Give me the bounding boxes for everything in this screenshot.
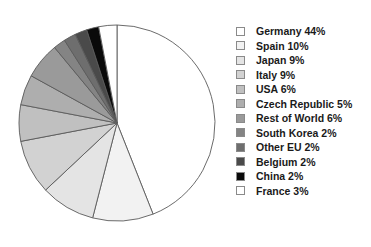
pie-svg (0, 0, 232, 247)
chart-legend: Germany 44%Spain 10%Japan 9%Italy 9%USA … (236, 24, 371, 198)
legend-item-label: Rest of World 6% (256, 113, 342, 124)
legend-item[interactable]: China 2% (236, 169, 371, 184)
legend-swatch-icon (236, 114, 245, 123)
legend-item[interactable]: Japan 9% (236, 53, 371, 68)
legend-item-label: Other EU 2% (256, 142, 320, 153)
legend-swatch-icon (236, 27, 245, 36)
legend-swatch-icon (236, 186, 245, 195)
legend-swatch-icon (236, 128, 245, 137)
legend-item-label: France 3% (256, 186, 309, 197)
legend-item-label: USA 6% (256, 84, 296, 95)
legend-item[interactable]: Rest of World 6% (236, 111, 371, 126)
legend-swatch-icon (236, 85, 245, 94)
legend-item-label: Japan 9% (256, 55, 304, 66)
legend-swatch-icon (236, 143, 245, 152)
legend-item[interactable]: Spain 10% (236, 39, 371, 54)
legend-item[interactable]: Belgium 2% (236, 155, 371, 170)
legend-item[interactable]: South Korea 2% (236, 126, 371, 141)
legend-swatch-icon (236, 41, 245, 50)
legend-swatch-icon (236, 56, 245, 65)
legend-swatch-icon (236, 172, 245, 181)
legend-item[interactable]: USA 6% (236, 82, 371, 97)
legend-item[interactable]: Other EU 2% (236, 140, 371, 155)
legend-item[interactable]: Italy 9% (236, 68, 371, 83)
legend-item[interactable]: Czech Republic 5% (236, 97, 371, 112)
legend-item-label: South Korea 2% (256, 128, 337, 139)
legend-item-label: Spain 10% (256, 41, 309, 52)
legend-item-label: Italy 9% (256, 70, 295, 81)
legend-item-label: China 2% (256, 171, 303, 182)
legend-swatch-icon (236, 99, 245, 108)
pie-chart-figure: Germany 44%Spain 10%Japan 9%Italy 9%USA … (0, 0, 371, 247)
pie-plot-area (0, 0, 232, 247)
legend-swatch-icon (236, 157, 245, 166)
legend-item-label: Germany 44% (256, 26, 325, 37)
legend-item-label: Czech Republic 5% (256, 99, 352, 110)
legend-swatch-icon (236, 70, 245, 79)
legend-item[interactable]: Germany 44% (236, 24, 371, 39)
legend-item-label: Belgium 2% (256, 157, 316, 168)
legend-item[interactable]: France 3% (236, 184, 371, 199)
